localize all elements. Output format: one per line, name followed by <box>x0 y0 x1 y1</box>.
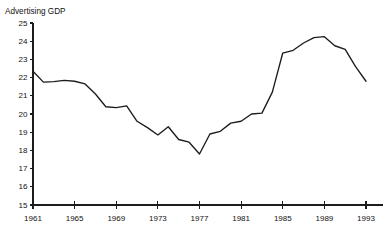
x-tick-label: 1989 <box>316 214 334 223</box>
chart-container: Advertising GDP 1516171819202122232425 1… <box>0 0 389 240</box>
line-chart-plot: 1516171819202122232425 19611965196919731… <box>0 0 389 240</box>
y-tick-label: 22 <box>19 73 28 82</box>
x-tick-label: 1993 <box>357 214 375 223</box>
y-tick-label: 15 <box>19 201 28 210</box>
y-tick-label: 23 <box>19 55 28 64</box>
x-axis-tick-labels: 196119651969197319771981198519891993 <box>24 214 375 223</box>
y-tick-label: 24 <box>19 37 28 46</box>
y-tick-label: 16 <box>19 182 28 191</box>
y-axis-tick-labels: 1516171819202122232425 <box>19 19 28 210</box>
data-series-line <box>33 37 366 154</box>
y-tick-label: 17 <box>19 164 28 173</box>
x-tick-label: 1977 <box>191 214 209 223</box>
x-tick-label: 1965 <box>66 214 84 223</box>
y-tick-label: 21 <box>19 91 28 100</box>
y-tick-label: 25 <box>19 19 28 28</box>
y-tick-label: 19 <box>19 128 28 137</box>
x-tick-label: 1981 <box>232 214 250 223</box>
x-tick-label: 1969 <box>107 214 125 223</box>
y-tick-label: 18 <box>19 146 28 155</box>
x-tick-label: 1961 <box>24 214 42 223</box>
x-tick-label: 1985 <box>274 214 292 223</box>
y-tick-label: 20 <box>19 110 28 119</box>
x-tick-label: 1973 <box>149 214 167 223</box>
